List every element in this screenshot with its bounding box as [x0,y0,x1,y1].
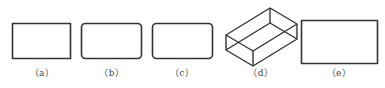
panel-b-rounded-rectangle [82,24,142,59]
panel-a-rectangle [13,24,71,59]
panel-c-label: （c） [162,66,202,79]
shape-figure: （a） （b） （c） （d） （e） [0,0,385,88]
panel-d-isometric-box [226,8,297,66]
panel-e-rectangle [302,21,378,64]
panel-d-label: （d） [241,66,281,79]
panel-c-rounded-rectangle [153,24,213,59]
panel-b-label: （b） [92,66,132,79]
panel-a-label: （a） [22,66,62,79]
panel-e-label: （e） [319,66,359,79]
